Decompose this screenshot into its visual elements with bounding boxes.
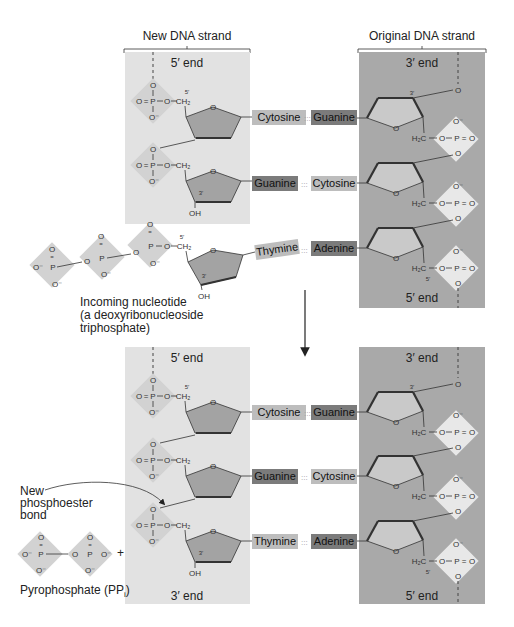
svg-text:O: O (98, 232, 104, 241)
svg-text:O: O (150, 145, 156, 154)
svg-text:=: = (144, 97, 149, 106)
new-strand-5prime-end-top: 5′ end (171, 56, 203, 70)
svg-text::::: ::: (301, 473, 308, 482)
svg-text:OH: OH (198, 292, 210, 301)
svg-text:P: P (50, 263, 55, 272)
svg-text:O⁻: O⁻ (453, 247, 463, 256)
svg-text:H₂C: H₂C (412, 264, 427, 273)
dna-replication-diagram: New DNA strand Original DNA strand 5′ en… (0, 0, 514, 627)
svg-text:O: O (164, 161, 170, 170)
svg-text:O: O (136, 521, 142, 530)
svg-text:P: P (454, 199, 459, 208)
svg-text:=: = (144, 521, 149, 530)
svg-text:P: P (150, 97, 155, 106)
svg-text:O: O (210, 103, 216, 112)
svg-text:P: P (150, 521, 155, 530)
svg-text:O: O (210, 246, 216, 255)
svg-text:O: O (210, 398, 216, 407)
svg-text:CH₂: CH₂ (176, 521, 191, 530)
svg-text:O: O (136, 161, 142, 170)
header-new-strand: New DNA strand (124, 29, 250, 53)
svg-text:P: P (148, 242, 153, 251)
svg-text:O: O (469, 428, 475, 437)
svg-text:O: O (439, 428, 445, 437)
svg-text:O: O (164, 242, 170, 251)
pyrophosphate: O = O⁻ P O⁻ O O = P O⁻ O⁻ + Pyrophosphat… (17, 531, 129, 599)
original-strand-5prime-end-bottom-panel: 5′ end (406, 589, 438, 603)
svg-text:=: = (144, 456, 149, 465)
incoming-nucleotide-caption: Incoming nucleotide (a deoxyribonucleosi… (80, 295, 204, 335)
svg-text:P: P (150, 392, 155, 401)
svg-text:O: O (84, 257, 90, 266)
base-guanine: Guanine (313, 111, 355, 123)
svg-text:Incoming nucleotide: Incoming nucleotide (80, 295, 187, 309)
svg-text:=: = (39, 542, 43, 548)
svg-text:O⁻: O⁻ (22, 550, 32, 559)
svg-text:O⁻: O⁻ (101, 270, 111, 279)
svg-text:O⁻: O⁻ (36, 566, 46, 575)
svg-text:O: O (455, 149, 461, 158)
svg-text:=: = (462, 492, 467, 501)
svg-text:O: O (439, 199, 445, 208)
svg-text:O: O (439, 264, 445, 273)
svg-text:O: O (49, 245, 55, 254)
svg-text:O: O (164, 392, 170, 401)
svg-text:=: = (462, 428, 467, 437)
svg-text::::: ::: (301, 246, 308, 255)
svg-text:=: = (88, 542, 92, 548)
svg-text:O⁻: O⁻ (453, 475, 463, 484)
original-strand-5prime-end-bottom: 5′ end (406, 291, 438, 305)
svg-text:O⁻: O⁻ (150, 259, 160, 268)
base-pair-top-1: Cytosine ::: Guanine (252, 110, 357, 125)
svg-text::::: ::: (304, 114, 311, 123)
svg-text:O: O (469, 557, 475, 566)
svg-text:P: P (150, 456, 155, 465)
svg-text:O: O (439, 557, 445, 566)
svg-text:O: O (164, 456, 170, 465)
svg-text:P: P (454, 557, 459, 566)
svg-text:O⁻: O⁻ (149, 408, 159, 417)
svg-text:O: O (455, 279, 461, 288)
svg-text:OH: OH (189, 209, 201, 218)
svg-text:P: P (87, 550, 92, 559)
svg-text:O: O (393, 547, 399, 556)
new-strand-bracket (124, 46, 250, 53)
original-strand-label: Original DNA strand (369, 29, 475, 43)
base-cytosine: Cytosine (258, 406, 301, 418)
svg-text:O⁻: O⁻ (453, 540, 463, 549)
original-strand-bracket (358, 46, 486, 53)
svg-text:O: O (393, 189, 399, 198)
svg-text:P: P (150, 161, 155, 170)
svg-text:H₂C: H₂C (412, 134, 427, 143)
base-pair-bottom-1: Cytosine ::: Guanine (252, 405, 357, 420)
original-strand-3prime-end-bottom-panel: 3′ end (406, 351, 438, 365)
svg-text:P: P (454, 492, 459, 501)
svg-text:O: O (439, 492, 445, 501)
svg-text:O: O (210, 167, 216, 176)
base-pair-bottom-2: Guanine ::: Cytosine (252, 469, 357, 484)
svg-text:O: O (455, 380, 461, 389)
svg-text:H₂C: H₂C (412, 492, 427, 501)
svg-text:O⁻: O⁻ (101, 550, 111, 559)
svg-text:O: O (164, 521, 170, 530)
svg-text:CH₂: CH₂ (176, 456, 191, 465)
base-guanine: Guanine (313, 406, 355, 418)
svg-text:O: O (136, 97, 142, 106)
base-guanine: Guanine (254, 470, 296, 482)
svg-text:O: O (393, 418, 399, 427)
svg-text:5′: 5′ (180, 234, 185, 240)
svg-text:H₂C: H₂C (412, 557, 427, 566)
svg-text:O: O (210, 462, 216, 471)
svg-text:CH₂: CH₂ (177, 242, 192, 251)
svg-text::::: ::: (301, 538, 308, 547)
original-strand-3prime-end-top: 3′ end (406, 56, 438, 70)
svg-text:=: = (462, 264, 467, 273)
svg-text:O: O (393, 482, 399, 491)
svg-text::::: ::: (301, 180, 308, 189)
svg-text:O: O (136, 456, 142, 465)
base-pair-bottom-3: Thymine ::: Adenine (252, 534, 357, 549)
base-cytosine: Cytosine (313, 470, 356, 482)
svg-text:=: = (50, 254, 54, 260)
svg-text:=: = (462, 199, 467, 208)
svg-text:CH₂: CH₂ (176, 161, 191, 170)
